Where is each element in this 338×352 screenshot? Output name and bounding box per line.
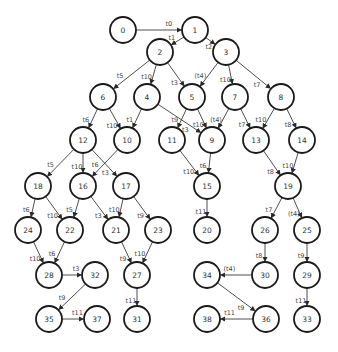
edge-arrow (217, 283, 255, 311)
node-label: 33 (302, 315, 312, 324)
state-node-28: 28 (36, 262, 62, 288)
node-label: 4 (145, 93, 150, 102)
edge-label: t7 (266, 206, 273, 214)
node-label: 22 (65, 226, 75, 235)
node-label: 21 (111, 226, 121, 235)
node-label: 23 (153, 226, 163, 235)
state-node-6: 6 (90, 84, 116, 110)
edge-label: t6 (82, 116, 89, 124)
state-node-15: 15 (194, 173, 220, 199)
node-label: 9 (210, 136, 215, 145)
edge-label: t10 (193, 121, 204, 129)
edge-arrow (31, 199, 35, 217)
state-node-0: 0 (110, 17, 136, 43)
state-node-33: 33 (294, 306, 320, 332)
node-label: 32 (90, 271, 100, 280)
state-node-22: 22 (57, 217, 83, 243)
edge-label: t3 (73, 265, 80, 273)
node-label: 26 (260, 226, 270, 235)
edge-label: t11 (126, 297, 137, 305)
state-node-35: 35 (36, 306, 62, 332)
edge-label: t0 (165, 20, 172, 28)
edge-label: t9 (298, 252, 305, 260)
edge-label: t11 (224, 309, 235, 317)
edge-arrow (208, 153, 210, 173)
state-node-4: 4 (134, 84, 160, 110)
state-node-38: 38 (194, 306, 220, 332)
state-node-11: 11 (159, 127, 185, 153)
edge-label: t5 (66, 206, 73, 214)
node-label: 27 (132, 271, 142, 280)
nodes-layer: 0123645781210119131418161715192422212320… (15, 17, 320, 332)
state-node-34: 34 (194, 262, 220, 288)
edge-34-to-36 (217, 283, 255, 311)
node-label: 34 (202, 271, 212, 280)
node-label: 38 (202, 315, 212, 324)
node-label: 6 (101, 93, 106, 102)
edge-label: (t4) (223, 265, 235, 273)
state-node-37: 37 (84, 306, 110, 332)
edge-label: t2 (206, 43, 213, 51)
edge-label: t10 (47, 212, 58, 220)
state-node-12: 12 (70, 127, 96, 153)
node-label: 10 (122, 136, 132, 145)
node-label: 16 (78, 182, 88, 191)
state-node-27: 27 (124, 262, 150, 288)
state-node-3: 3 (213, 39, 239, 65)
edge-label: t6 (49, 250, 56, 258)
edge-label: t10 (220, 76, 231, 84)
edge-label: (t4) (195, 72, 207, 80)
edge-label: t6 (23, 206, 30, 214)
edge-22-to-28 (55, 242, 65, 263)
edge-label: t5 (47, 161, 54, 169)
state-node-29: 29 (294, 262, 320, 288)
edge-arrow (271, 198, 282, 219)
node-label: 12 (78, 136, 88, 145)
node-label: 0 (121, 26, 126, 35)
node-label: 17 (121, 182, 131, 191)
node-label: 37 (92, 315, 102, 324)
edge-label: t3 (102, 169, 109, 177)
state-node-19: 19 (275, 173, 301, 199)
node-label: 18 (33, 182, 43, 191)
edge-label: t8 (267, 168, 274, 176)
state-node-7: 7 (222, 84, 248, 110)
edge-label: (t4) (288, 210, 300, 218)
edge-arrow (133, 109, 142, 128)
edge-label: t10 (141, 73, 152, 81)
edge-label: t10 (109, 206, 120, 214)
edge-label: t3 (95, 212, 102, 220)
state-node-23: 23 (145, 217, 171, 243)
edge-label: t5 (117, 72, 124, 80)
edge-label: t6 (92, 161, 99, 169)
node-label: 13 (251, 136, 261, 145)
state-node-25: 25 (294, 217, 320, 243)
edge-label: t10 (135, 250, 146, 258)
state-node-17: 17 (113, 173, 139, 199)
edge-label: t10 (107, 122, 118, 130)
edge-label: t10 (283, 162, 294, 170)
edge-label: t8 (256, 252, 263, 260)
state-node-21: 21 (103, 217, 129, 243)
edge-label: t7 (239, 121, 246, 129)
state-node-2: 2 (147, 39, 173, 65)
node-label: 19 (283, 182, 293, 191)
edge-9-to-15 (208, 153, 210, 173)
edge-label: t1 (168, 34, 175, 42)
state-node-31: 31 (124, 306, 150, 332)
state-node-26: 26 (252, 217, 278, 243)
state-node-8: 8 (268, 84, 294, 110)
state-node-18: 18 (25, 173, 51, 199)
edge-arrow (55, 242, 65, 263)
state-node-10: 10 (114, 127, 140, 153)
edge-arrow (89, 109, 98, 128)
state-node-1: 1 (182, 17, 208, 43)
node-label: 11 (167, 136, 177, 145)
state-graph: t0t1t2t5t10t3(t4)t10t7t6t10t1t3t9t10(t4)… (0, 0, 338, 352)
node-label: 7 (233, 93, 238, 102)
edge-label: t9 (59, 294, 66, 302)
edge-label: t1 (126, 116, 133, 124)
edge-label: t9 (137, 212, 144, 220)
edge-label: t9 (120, 255, 127, 263)
edge-label: t7 (254, 81, 261, 89)
